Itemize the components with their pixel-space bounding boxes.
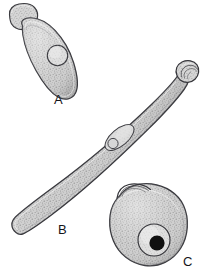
specimen-b-nucleus — [108, 138, 118, 148]
figure-label-b: B — [58, 223, 67, 236]
figure-plate-drawing — [0, 0, 204, 275]
specimen-a-nucleus — [47, 45, 67, 65]
specimen-c-group — [110, 184, 188, 266]
specimen-b-terminal-knob-sucker — [176, 61, 199, 83]
figure-label-c: C — [183, 255, 193, 268]
figure-plate: A B C — [0, 0, 204, 275]
figure-label-a: A — [54, 93, 63, 106]
specimen-c-nucleolus — [149, 235, 164, 250]
specimen-c-nucleus — [138, 224, 170, 256]
